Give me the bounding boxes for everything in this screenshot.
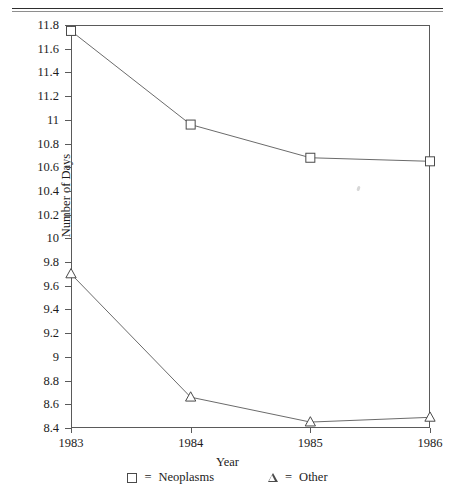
data-point-other-1986 <box>425 412 435 421</box>
x-axis-tick-mark <box>310 428 311 433</box>
x-axis-tick-mark <box>430 428 431 433</box>
data-point-neoplasms-1986 <box>426 157 435 166</box>
y-axis-tick-label: 9 <box>3 351 59 364</box>
y-axis-tick-label: 11.4 <box>3 66 59 79</box>
y-axis-tick-mark <box>65 167 71 168</box>
legend-equals-neoplasms: = <box>144 470 151 485</box>
y-axis-tick-label: 11 <box>3 114 59 127</box>
data-point-other-1983 <box>66 269 76 278</box>
y-axis-tick-label: 9.2 <box>3 327 59 340</box>
y-axis-tick-label: 8.6 <box>3 398 59 411</box>
y-axis-tick-label: 10.6 <box>3 161 59 174</box>
y-axis-tick-label: 9.8 <box>3 256 59 269</box>
y-axis-tick-mark <box>65 286 71 287</box>
y-axis-tick-mark <box>65 404 71 405</box>
y-axis-tick-label: 10.8 <box>3 138 59 151</box>
page-header-rule <box>12 8 443 9</box>
data-point-neoplasms-1983 <box>67 26 76 35</box>
y-axis-tick-mark <box>65 333 71 334</box>
y-axis-tick-mark <box>65 262 71 263</box>
y-axis-tick-label: 11.6 <box>3 43 59 56</box>
x-axis-tick-mark <box>191 428 192 433</box>
x-axis-tick-label: 1986 <box>400 437 455 450</box>
y-axis-tick-mark <box>65 357 71 358</box>
y-axis-tick-mark <box>65 309 71 310</box>
triangle-marker-icon <box>268 473 278 482</box>
series-line-other <box>71 274 430 422</box>
y-axis-tick-mark <box>65 381 71 382</box>
y-axis-tick-mark <box>65 120 71 121</box>
chart-page: Number of Days Year = Neoplasms = Other … <box>0 0 455 490</box>
data-point-neoplasms-1985 <box>306 153 315 162</box>
y-axis-tick-mark <box>65 72 71 73</box>
y-axis-tick-label: 9.6 <box>3 280 59 293</box>
plot-area <box>71 25 430 428</box>
y-axis-tick-label: 10 <box>3 232 59 245</box>
y-axis-tick-label: 8.4 <box>3 422 59 435</box>
y-axis-tick-mark <box>65 25 71 26</box>
y-axis-tick-mark <box>65 238 71 239</box>
square-marker-icon <box>127 473 137 483</box>
y-axis-tick-label: 11.8 <box>3 19 59 32</box>
y-axis-tick-mark <box>65 144 71 145</box>
legend-equals-other: = <box>285 470 292 485</box>
y-axis-tick-label: 11.2 <box>3 90 59 103</box>
y-axis-tick-mark <box>65 215 71 216</box>
legend-item-neoplasms: = Neoplasms <box>127 470 214 485</box>
x-axis-tick-label: 1984 <box>161 437 221 450</box>
y-axis-tick-mark <box>65 49 71 50</box>
legend-item-other: = Other <box>268 470 328 485</box>
x-axis-tick-mark <box>71 428 72 433</box>
legend-label-other: Other <box>299 470 327 485</box>
page-header-rule-secondary <box>12 11 443 12</box>
legend-label-neoplasms: Neoplasms <box>158 470 214 485</box>
data-point-neoplasms-1984 <box>186 120 195 129</box>
chart-legend: = Neoplasms = Other <box>0 470 455 485</box>
x-axis-tick-label: 1983 <box>41 437 101 450</box>
chart-canvas <box>71 25 430 428</box>
series-line-neoplasms <box>71 31 430 161</box>
y-axis-tick-label: 10.2 <box>3 209 59 222</box>
y-axis-tick-label: 8.8 <box>3 375 59 388</box>
x-axis-label: Year <box>0 455 455 470</box>
x-axis-tick-label: 1985 <box>280 437 340 450</box>
y-axis-tick-label: 9.4 <box>3 303 59 316</box>
y-axis-tick-mark <box>65 191 71 192</box>
y-axis-tick-mark <box>65 96 71 97</box>
y-axis-tick-label: 10.4 <box>3 185 59 198</box>
